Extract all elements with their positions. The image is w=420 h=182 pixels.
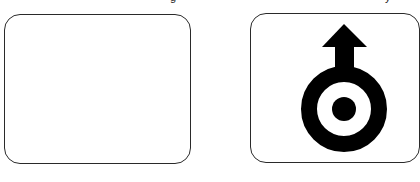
center-dot-icon: [332, 97, 356, 121]
arrow-head-icon: [322, 24, 367, 47]
